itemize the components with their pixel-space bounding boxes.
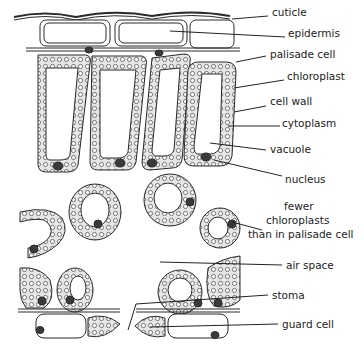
spongy-cells xyxy=(20,174,240,314)
label-fewer-line1: fewer xyxy=(284,200,314,212)
label-stoma: stoma xyxy=(272,289,305,301)
lower-epidermis xyxy=(18,309,240,339)
label-epidermis: epidermis xyxy=(288,27,340,39)
label-fewer-line2: chloroplasts xyxy=(266,214,329,226)
label-air-space: air space xyxy=(286,259,334,271)
label-vacuole: vacuole xyxy=(270,143,311,155)
label-cytoplasm: cytoplasm xyxy=(282,117,336,129)
guard-cell-left xyxy=(88,316,120,337)
palisade-cells xyxy=(38,54,236,172)
label-chloroplast: chloroplast xyxy=(287,70,345,82)
leaf-cross-section-diagram: cuticle epidermis palisade cell chloropl… xyxy=(0,0,364,351)
epidermis-cells xyxy=(26,20,240,56)
label-guard-cell: guard cell xyxy=(282,318,334,330)
label-cell-wall: cell wall xyxy=(270,95,312,107)
label-cuticle: cuticle xyxy=(272,6,307,18)
label-nucleus: nucleus xyxy=(285,173,326,185)
label-fewer-line3: than in palisade cell xyxy=(248,228,353,240)
label-palisade-cell: palisade cell xyxy=(270,48,335,60)
